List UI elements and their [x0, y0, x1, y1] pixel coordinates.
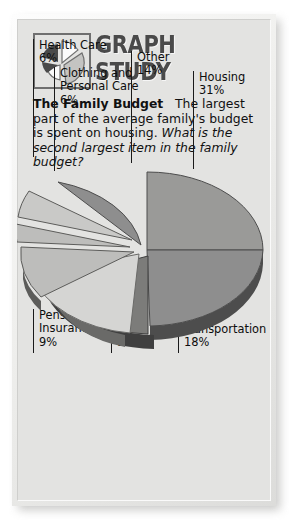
card-content: GRAPH STUDY The Family Budget The larges…	[17, 19, 271, 501]
label-clothing-value: 6%	[60, 94, 138, 107]
wedge-housing-lower[interactable]	[147, 250, 263, 326]
label-other-value: 14%	[137, 64, 169, 77]
graph-study-card: GRAPH STUDY The Family Budget The larges…	[0, 0, 293, 528]
label-health-care-value: 6%	[39, 52, 106, 65]
label-housing-name: Housing	[199, 71, 245, 84]
pie-chart	[17, 149, 271, 501]
pie-chart-svg	[17, 149, 271, 501]
wedge-housing[interactable]	[147, 172, 263, 250]
label-housing-value: 31%	[199, 84, 245, 97]
label-other: Other 14%	[131, 51, 169, 163]
label-clothing-name-1: Clothing and	[60, 67, 138, 80]
label-other-name: Other	[137, 51, 169, 64]
label-clothing-name-2: Personal Care	[60, 80, 138, 93]
label-health-care-name: Health Care	[39, 39, 106, 52]
